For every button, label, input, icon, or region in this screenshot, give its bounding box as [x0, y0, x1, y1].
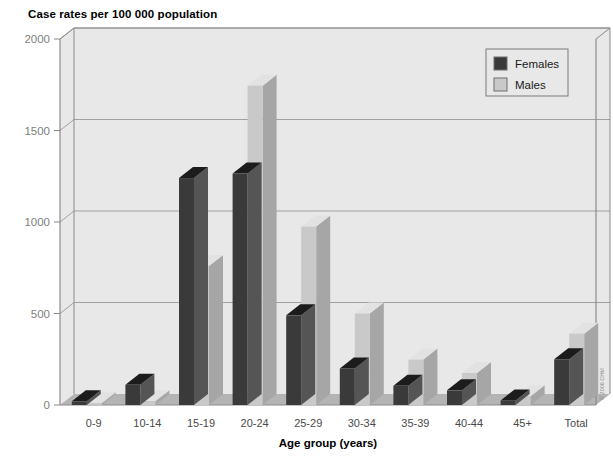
bar-female-30-34-front	[340, 368, 355, 405]
legend-label-females: Females	[515, 58, 559, 70]
bar-female-15-19	[179, 167, 208, 405]
bar-male-0-9-front	[87, 403, 102, 405]
chart-container: Case rates per 100 000 population 050010…	[0, 0, 613, 471]
legend-swatch-females	[494, 57, 507, 70]
bar-male-20-24-side	[263, 75, 277, 405]
bar-male-25-29-side	[316, 216, 330, 405]
bar-female-20-24-front	[233, 174, 248, 405]
bar-chart: 05001000150020000-910-1415-1920-2425-293…	[0, 0, 613, 471]
bar-female-20-24	[233, 163, 262, 405]
bar-female-35-39-front	[393, 386, 408, 405]
bar-female-20-24-side	[248, 163, 262, 405]
y-axis-tick-label: 2000	[24, 33, 50, 45]
bar-female-25-29	[286, 304, 315, 405]
bar-female-40-44-front	[447, 390, 462, 405]
x-axis-title: Age group (years)	[279, 437, 378, 449]
x-axis-tick-label: Total	[565, 417, 588, 429]
bar-female-15-19-side	[194, 167, 208, 405]
x-axis-tick-label: 40-44	[455, 417, 483, 429]
bar-female-25-29-front	[286, 315, 301, 405]
x-axis-tick-label: 25-29	[294, 417, 322, 429]
legend-swatch-males	[494, 78, 507, 91]
y-axis-tick-label: 500	[31, 308, 50, 320]
bar-male-15-19-side	[209, 255, 223, 405]
y-axis-tick-label: 0	[44, 399, 50, 411]
bar-female-15-19-front	[179, 178, 194, 405]
x-axis-tick-label: 15-19	[187, 417, 215, 429]
x-axis-tick-label: 45+	[513, 417, 532, 429]
x-axis-tick-label: 10-14	[133, 417, 161, 429]
bar-male-Total-side	[584, 323, 598, 405]
credit-text: © 2006 CHM	[599, 368, 605, 400]
bar-female-10-14-front	[125, 385, 140, 405]
bar-female-Total	[554, 348, 583, 405]
legend-label-males: Males	[515, 79, 546, 91]
bar-male-30-34-side	[370, 303, 384, 406]
x-axis-tick-label: 20-24	[241, 417, 269, 429]
bar-female-0-9-front	[72, 401, 87, 405]
bar-female-45+-front	[501, 400, 516, 405]
x-axis-tick-label: 35-39	[401, 417, 429, 429]
bar-female-Total-front	[554, 359, 569, 405]
x-axis-tick-label: 30-34	[348, 417, 376, 429]
y-axis-tick-label: 1000	[24, 216, 50, 228]
y-axis-tick-label: 1500	[24, 125, 50, 137]
x-axis-tick-label: 0-9	[86, 417, 102, 429]
bar-female-25-29-side	[301, 304, 315, 405]
